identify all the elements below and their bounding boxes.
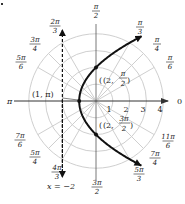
svg-text:π: π — [167, 54, 173, 62]
point-leader — [62, 98, 78, 100]
angle-label-135: 3π4 — [30, 36, 41, 53]
svg-text:5π: 5π — [134, 166, 143, 174]
svg-text:7π: 7π — [15, 132, 24, 140]
radial-tick-labels: 1 2 3 4 — [106, 105, 162, 114]
svg-text:π: π — [120, 70, 126, 78]
svg-text:11π: 11π — [161, 133, 175, 141]
angle-label-225: 5π4 — [30, 149, 41, 166]
svg-text:1: 1 — [106, 105, 111, 114]
svg-text:(2,: (2, — [103, 121, 114, 130]
svg-text:4: 4 — [154, 45, 159, 53]
svg-text:7π: 7π — [150, 150, 159, 158]
svg-text:): ) — [127, 76, 130, 85]
svg-text:5π: 5π — [30, 149, 39, 157]
angle-label-330: 11π6 — [161, 133, 175, 150]
svg-text:3: 3 — [137, 175, 142, 183]
svg-text:π: π — [154, 36, 160, 44]
svg-text:3π: 3π — [92, 179, 101, 187]
angle-label-pi: π — [6, 97, 13, 106]
svg-text:6: 6 — [168, 63, 173, 71]
svg-text:4: 4 — [152, 159, 157, 167]
point-2-pi-over-2 — [94, 65, 98, 69]
angle-label-300: 5π3 — [134, 166, 145, 183]
point-1-pi — [77, 99, 81, 103]
svg-text:(2,: (2, — [103, 76, 114, 85]
svg-text:6: 6 — [18, 141, 23, 149]
svg-text:5π: 5π — [16, 54, 25, 62]
svg-text:3: 3 — [140, 105, 145, 114]
angle-label-210: 7π6 — [15, 132, 26, 149]
angle-label-315: 7π4 — [150, 150, 161, 167]
svg-text:π: π — [137, 19, 143, 27]
svg-text:6: 6 — [166, 142, 171, 150]
corner-mark — [1, 3, 3, 5]
svg-text:4: 4 — [32, 158, 37, 166]
angle-label-45: π4 — [153, 36, 161, 53]
svg-text:3π: 3π — [119, 115, 128, 123]
directrix-label: x = −2 — [47, 182, 75, 191]
svg-text:3: 3 — [53, 27, 58, 35]
point-label-1-pi: (1, π) — [32, 90, 54, 99]
svg-text:4: 4 — [32, 45, 37, 53]
point-2-3pi-over-2 — [94, 133, 98, 137]
svg-text:3: 3 — [138, 28, 143, 36]
svg-text:2: 2 — [120, 80, 126, 88]
svg-text:6: 6 — [19, 63, 24, 71]
svg-text:2: 2 — [93, 12, 99, 20]
svg-text:3π: 3π — [30, 36, 39, 44]
angle-label-270: 3π2 — [92, 179, 103, 196]
angle-label-60: π3 — [136, 19, 144, 36]
angle-label-30: π6 — [166, 54, 174, 71]
svg-text:2: 2 — [121, 125, 127, 133]
svg-text:3: 3 — [55, 173, 60, 181]
svg-text:2: 2 — [123, 105, 128, 114]
svg-text:(: ( — [99, 76, 102, 85]
point-label-2-3pi-over-2: ( (2, 3π 2 ) — [99, 115, 133, 133]
angle-label-90: π2 — [92, 3, 100, 20]
svg-text:4π: 4π — [51, 164, 61, 172]
angle-label-120: 2π3 — [49, 18, 60, 35]
svg-text:2: 2 — [94, 188, 100, 196]
polar-diagram: 1 2 3 4 π2π3π4π611π67π45π33π24π35π47π65π… — [0, 0, 185, 204]
svg-text:π: π — [93, 3, 99, 11]
angle-label-240: 4π3 — [51, 164, 62, 181]
svg-text:(: ( — [99, 121, 102, 130]
angle-label-0: 0 — [177, 97, 182, 106]
angle-label-150: 5π6 — [16, 54, 27, 71]
svg-text:2π: 2π — [49, 18, 59, 26]
svg-text:): ) — [130, 121, 133, 130]
svg-text:4: 4 — [157, 105, 162, 114]
